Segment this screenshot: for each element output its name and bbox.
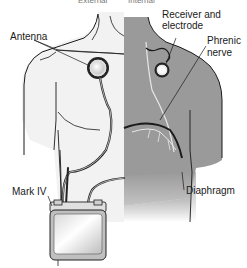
label-receiver-line1: Receiver and: [162, 9, 221, 20]
receiver: [155, 63, 170, 78]
label-receiver-line2: electrode: [162, 20, 203, 31]
label-antenna: Antenna: [10, 31, 47, 42]
internal-header: Internal: [128, 0, 155, 5]
label-phrenic-line2: nerve: [207, 47, 232, 58]
label-mark-iv: Mark IV: [12, 186, 46, 197]
label-diaphragm: Diaphragm: [186, 185, 235, 196]
antenna: [87, 57, 109, 79]
mark-iv-transmitter: [50, 200, 106, 266]
diagram-canvas: External Internal Antenna Receiver and e…: [0, 0, 247, 268]
external-header: External: [78, 0, 107, 5]
label-phrenic-line1: Phrenic: [207, 35, 241, 46]
